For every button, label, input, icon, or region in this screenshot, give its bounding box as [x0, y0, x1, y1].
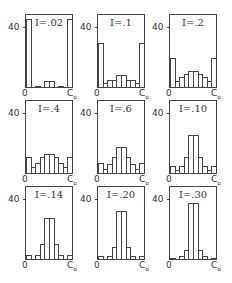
y-tick-label: 40	[8, 108, 19, 118]
y-tick-label: 40	[80, 22, 91, 32]
panel-title: I=.10	[169, 103, 217, 114]
x-label-zero: 0	[94, 88, 100, 98]
histogram-bar	[67, 157, 73, 173]
histogram-bar	[49, 81, 55, 87]
x-label-c0: Co	[211, 88, 221, 100]
x-label-c0: Co	[67, 174, 77, 186]
histogram-panel: I=.6400Co	[97, 100, 145, 174]
histogram-bar	[67, 19, 73, 87]
y-tick-mark	[95, 27, 98, 28]
x-label-c0: Co	[139, 88, 149, 100]
x-label-c0: Co	[139, 174, 149, 186]
panel-title: I=.30	[169, 189, 217, 200]
histogram-bar	[211, 258, 217, 259]
x-label-zero: 0	[166, 260, 172, 270]
y-tick-mark	[167, 113, 170, 114]
x-label-subscript: o	[73, 93, 77, 100]
histogram-bar	[58, 255, 64, 259]
y-tick-label: 40	[80, 108, 91, 118]
x-label-subscript: o	[73, 179, 77, 186]
y-tick-label: 40	[8, 22, 19, 32]
x-label-zero: 0	[22, 174, 28, 184]
x-label-c0: Co	[211, 174, 221, 186]
histogram-bar	[98, 256, 104, 259]
y-tick-mark	[23, 113, 26, 114]
x-label-subscript: o	[217, 179, 221, 186]
histogram-panel: I=.4400Co	[25, 100, 73, 174]
panel-title: I=.20	[97, 189, 145, 200]
y-tick-mark	[23, 27, 26, 28]
x-label-zero: 0	[22, 88, 28, 98]
x-label-subscript: o	[145, 93, 149, 100]
panel-title: I=.6	[97, 103, 145, 114]
y-tick-label: 40	[80, 194, 91, 204]
histogram-bar	[130, 256, 136, 259]
histogram-panel: I=.10400Co	[169, 100, 217, 174]
x-label-subscript: o	[217, 93, 221, 100]
y-tick-mark	[95, 113, 98, 114]
panel-title: I=.14	[25, 189, 73, 200]
histogram-panel: I=.1400Co	[97, 14, 145, 88]
y-tick-label: 40	[152, 108, 163, 118]
histogram-bar	[98, 43, 104, 87]
x-label-subscript: o	[145, 265, 149, 272]
x-label-c0: Co	[67, 88, 77, 100]
x-label-zero: 0	[94, 174, 100, 184]
panel-title: I=.2	[169, 17, 217, 28]
x-label-zero: 0	[22, 260, 28, 270]
histogram-panel: I=.20400Co	[97, 186, 145, 260]
histogram-bar	[26, 19, 32, 87]
panel-title: I=.1	[97, 17, 145, 28]
histogram-bar	[35, 86, 41, 87]
histogram-bar	[67, 255, 73, 259]
y-tick-mark	[95, 199, 98, 200]
histogram-panel: I=.30400Co	[169, 186, 217, 260]
x-label-subscript: o	[217, 265, 221, 272]
histogram-panel: I=.14400Co	[25, 186, 73, 260]
histogram-bar	[58, 86, 64, 87]
x-label-zero: 0	[166, 88, 172, 98]
histogram-panel: I=.02400Co	[25, 14, 73, 88]
histogram-bar	[202, 256, 208, 259]
histogram-bar	[26, 255, 32, 259]
y-tick-label: 40	[8, 194, 19, 204]
x-label-c0: Co	[67, 260, 77, 272]
x-label-c0: Co	[211, 260, 221, 272]
panel-title: I=.02	[25, 17, 73, 28]
histogram-bar	[170, 258, 176, 259]
x-label-c0: Co	[139, 260, 149, 272]
histogram-bar	[139, 256, 145, 259]
histogram-bar	[139, 163, 145, 173]
histogram-bar	[211, 58, 217, 87]
x-label-subscript: o	[73, 265, 77, 272]
y-tick-mark	[167, 199, 170, 200]
y-tick-mark	[167, 27, 170, 28]
y-tick-label: 40	[152, 194, 163, 204]
x-label-zero: 0	[166, 174, 172, 184]
histogram-bar	[211, 166, 217, 173]
y-tick-mark	[23, 199, 26, 200]
x-label-subscript: o	[145, 179, 149, 186]
histogram-panel: I=.2400Co	[169, 14, 217, 88]
y-tick-label: 40	[152, 22, 163, 32]
histogram-bar	[139, 43, 145, 87]
panel-title: I=.4	[25, 103, 73, 114]
x-label-zero: 0	[94, 260, 100, 270]
